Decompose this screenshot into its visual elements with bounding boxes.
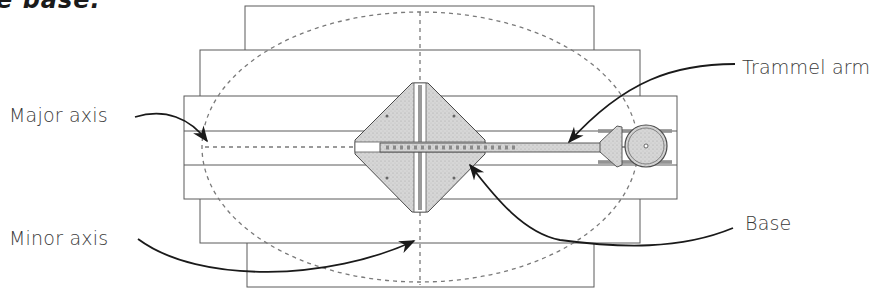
label-base: Base (745, 212, 791, 234)
screw-hole (386, 177, 389, 180)
router-bit (644, 144, 648, 148)
screw-hole (453, 177, 456, 180)
label-minor-axis: Minor axis (9, 227, 108, 249)
screw-hole (386, 115, 389, 118)
label-trammel-arm: Trammel arm (742, 56, 870, 78)
ellipse-jig-diagram (0, 0, 893, 290)
screw-hole (453, 115, 456, 118)
label-major-axis: Major axis (9, 104, 108, 126)
